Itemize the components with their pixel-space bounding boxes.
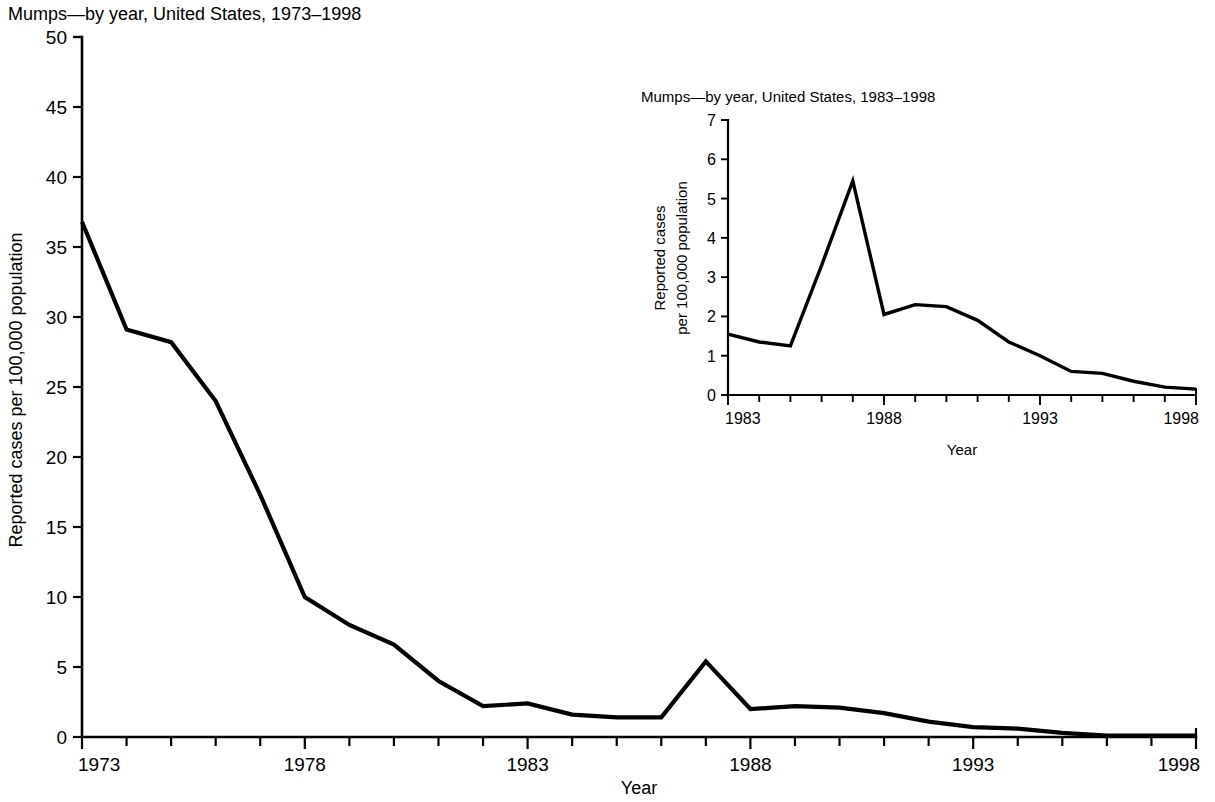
inset-y-tick-label: 7 — [707, 112, 716, 129]
inset-y-tick-label: 1 — [707, 348, 716, 365]
inset-y-axis-title-line2: per 100,000 population — [673, 181, 690, 334]
inset-y-axis-title-line1: Reported cases — [651, 205, 668, 310]
main-y-tick-label: 5 — [56, 657, 67, 678]
main-y-tick-label: 40 — [46, 167, 67, 188]
main-x-tick-label: 1998 — [1158, 754, 1200, 775]
main-y-tick-label: 30 — [46, 307, 67, 328]
main-axis-lines — [82, 37, 1196, 737]
inset-chart-title: Mumps—by year, United States, 1983–1998 — [641, 88, 935, 105]
main-chart-title: Mumps—by year, United States, 1973–1998 — [8, 4, 361, 24]
main-x-tick-label: 1993 — [952, 754, 994, 775]
main-y-axis-title: Reported cases per 100,000 population — [6, 232, 26, 547]
main-x-tick-label: 1973 — [78, 754, 120, 775]
inset-y-tick-label: 2 — [707, 308, 716, 325]
inset-x-tick-label: 1983 — [725, 410, 761, 427]
mumps-figure: 0510152025303540455019731978198319881993… — [0, 0, 1215, 802]
inset-y-tick-label: 5 — [707, 191, 716, 208]
main-y-tick-label: 20 — [46, 447, 67, 468]
main-data-line — [82, 222, 1196, 736]
main-chart: 0510152025303540455019731978198319881993… — [6, 4, 1200, 798]
main-x-tick-label: 1988 — [729, 754, 771, 775]
main-y-tick-label: 45 — [46, 97, 67, 118]
inset-y-tick-label: 6 — [707, 151, 716, 168]
inset-chart: 012345671983198819931998Mumps—by year, U… — [641, 88, 1199, 458]
inset-x-tick-label: 1993 — [1022, 410, 1058, 427]
inset-y-tick-label: 3 — [707, 269, 716, 286]
inset-x-axis-title: Year — [947, 441, 977, 458]
main-x-tick-label: 1983 — [506, 754, 548, 775]
inset-axis-lines — [728, 120, 1196, 395]
inset-y-tick-label: 4 — [707, 230, 716, 247]
inset-y-tick-label: 0 — [707, 387, 716, 404]
main-y-tick-label: 10 — [46, 587, 67, 608]
main-x-tick-label: 1978 — [284, 754, 326, 775]
main-y-tick-label: 0 — [56, 727, 67, 748]
inset-x-tick-label: 1988 — [866, 410, 902, 427]
main-y-tick-label: 25 — [46, 377, 67, 398]
main-y-tick-label: 15 — [46, 517, 67, 538]
inset-data-line — [728, 181, 1196, 389]
main-y-tick-label: 35 — [46, 237, 67, 258]
main-x-axis-title: Year — [621, 778, 657, 798]
figure-page: 0510152025303540455019731978198319881993… — [0, 0, 1215, 802]
inset-x-tick-label: 1998 — [1163, 410, 1199, 427]
main-y-tick-label: 50 — [46, 27, 67, 48]
